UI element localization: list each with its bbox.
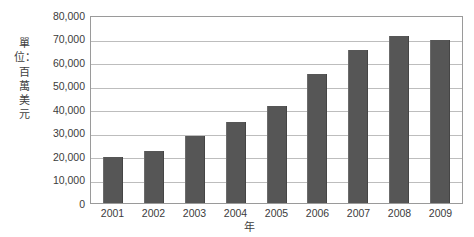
bar-slot <box>215 17 256 203</box>
x-axis-title: 年 <box>0 221 474 234</box>
bar-slot <box>93 17 134 203</box>
bar[interactable] <box>103 157 123 203</box>
plot-area <box>90 16 463 204</box>
bar-slot <box>297 17 338 203</box>
gridline <box>91 204 462 205</box>
y-axis-tick-label-group: 010,00020,00030,00040,00050,00060,00070,… <box>34 10 88 210</box>
bar-chart-figure: 單位：百萬美元 010,00020,00030,00040,00050,0006… <box>0 0 474 237</box>
bar[interactable] <box>267 106 287 203</box>
bar[interactable] <box>185 136 205 203</box>
bar[interactable] <box>430 40 450 203</box>
bar-slot <box>134 17 175 203</box>
x-axis-tick-label: 2007 <box>338 206 379 222</box>
x-axis-tick-label: 2003 <box>174 206 215 222</box>
y-axis-tick-label: 80,000 <box>53 11 85 22</box>
y-axis-title: 單位：百萬美元 <box>14 36 34 122</box>
y-axis-tick-label: 40,000 <box>53 105 85 116</box>
bar[interactable] <box>226 122 246 203</box>
bar[interactable] <box>307 74 327 203</box>
x-axis-tick-label: 2008 <box>379 206 420 222</box>
y-axis-tick-label: 70,000 <box>53 34 85 45</box>
bar-series-group <box>91 17 462 203</box>
x-axis-tick-label: 2006 <box>297 206 338 222</box>
x-axis-tick-label: 2004 <box>215 206 256 222</box>
y-axis-tick-label: 60,000 <box>53 58 85 69</box>
bar[interactable] <box>144 151 164 203</box>
x-axis-tick-label: 2002 <box>133 206 174 222</box>
y-axis-tick-label: 10,000 <box>53 175 85 186</box>
y-axis-tick-label: 30,000 <box>53 128 85 139</box>
x-axis-tick-label: 2005 <box>256 206 297 222</box>
bar[interactable] <box>389 36 409 203</box>
bar-slot <box>256 17 297 203</box>
x-axis-tick-label-group: 200120022003200420052006200720082009 <box>90 206 463 222</box>
y-axis-tick-label: 50,000 <box>53 81 85 92</box>
x-axis-tick-label: 2009 <box>420 206 461 222</box>
bar-slot <box>419 17 460 203</box>
y-axis-tick-label: 20,000 <box>53 152 85 163</box>
bar-slot <box>175 17 216 203</box>
bar[interactable] <box>348 50 368 203</box>
bar-slot <box>378 17 419 203</box>
y-axis-tick-label: 0 <box>79 199 85 210</box>
x-axis-tick-label: 2001 <box>92 206 133 222</box>
bar-slot <box>338 17 379 203</box>
